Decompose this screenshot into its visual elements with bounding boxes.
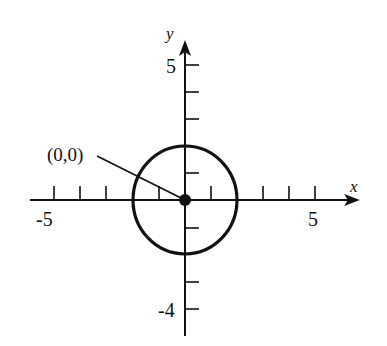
- x-max-tick-label: 5: [308, 208, 318, 230]
- coordinate-plane: (0,0) y x -5 5 5 -4: [0, 0, 387, 346]
- y-min-tick-label: -4: [158, 299, 175, 321]
- y-max-tick-label: 5: [166, 55, 176, 77]
- y-axis: [179, 40, 191, 336]
- center-leader-line: [97, 156, 185, 200]
- center-point: [179, 194, 191, 206]
- x-min-tick-label: -5: [36, 208, 53, 230]
- y-axis-label: y: [164, 24, 174, 43]
- x-axis-label: x: [349, 177, 358, 196]
- y-ticks: [185, 65, 199, 309]
- center-point-label: (0,0): [47, 144, 83, 166]
